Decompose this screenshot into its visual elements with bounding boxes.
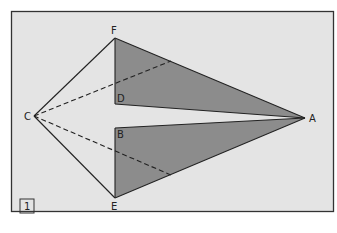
point-label-e: E bbox=[111, 201, 117, 212]
point-label-d: D bbox=[117, 93, 125, 104]
point-label-f: F bbox=[111, 25, 117, 36]
point-label-c: C bbox=[24, 111, 31, 122]
point-label-b: B bbox=[117, 129, 124, 140]
geometry-figure: F D C B A E 1 bbox=[0, 0, 337, 233]
point-label-a: A bbox=[309, 113, 316, 124]
figure-number: 1 bbox=[24, 201, 30, 212]
